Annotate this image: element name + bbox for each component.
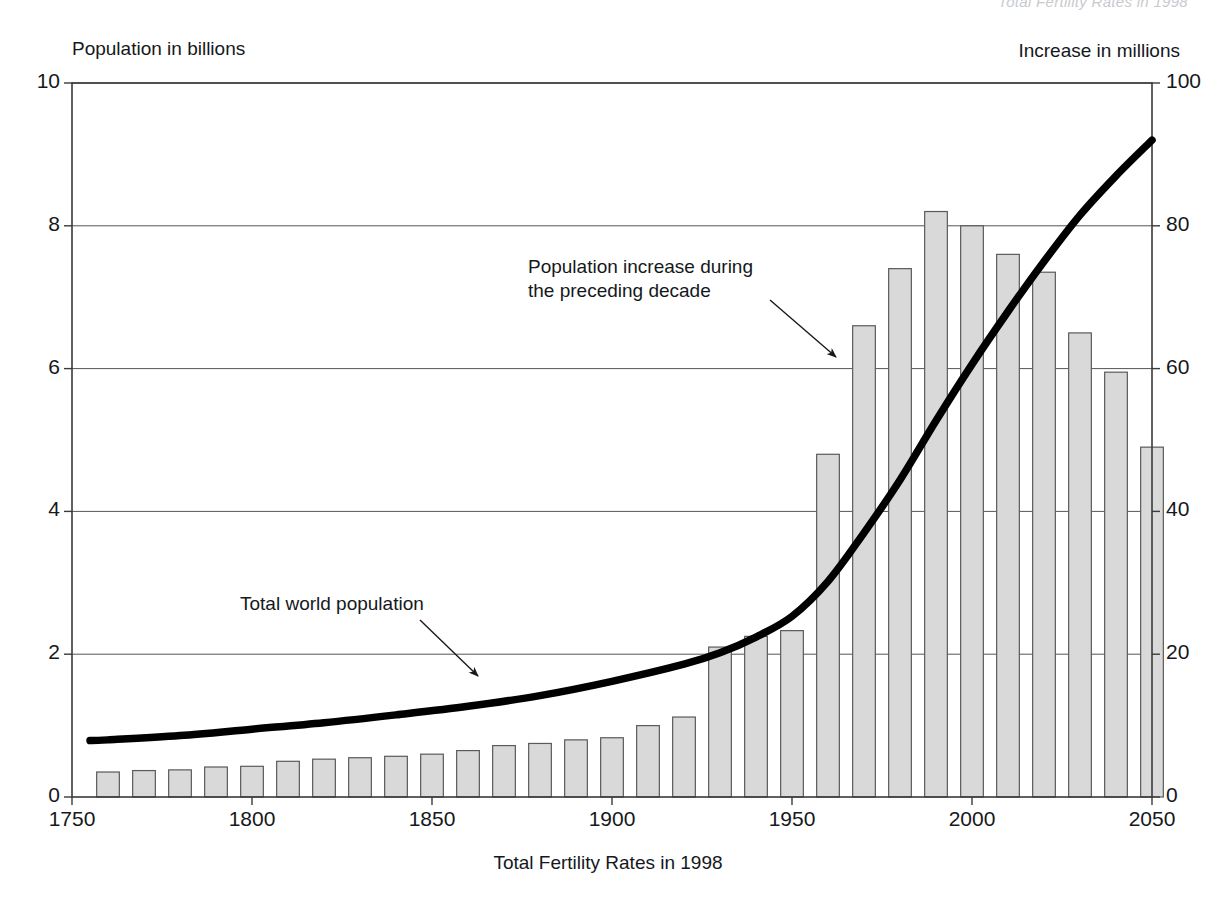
bar bbox=[961, 226, 984, 797]
x-axis-title: Total Fertility Rates in 1998 bbox=[0, 852, 1216, 874]
xtick-label: 2000 bbox=[932, 807, 1012, 831]
bar bbox=[997, 254, 1020, 797]
ytick-label-left: 4 bbox=[6, 497, 60, 521]
annotation-curve-label: Total world population bbox=[240, 592, 424, 616]
bar bbox=[385, 756, 408, 797]
population-line bbox=[90, 140, 1152, 740]
xtick-label: 1850 bbox=[392, 807, 472, 831]
bar bbox=[925, 212, 948, 797]
xtick-label: 2050 bbox=[1112, 807, 1192, 831]
bar bbox=[457, 751, 480, 797]
bar bbox=[241, 766, 264, 797]
frame-rect bbox=[72, 83, 1152, 797]
clipped-header-text: Total Fertility Rates in 1998 bbox=[998, 0, 1188, 10]
bar bbox=[673, 717, 696, 797]
bar bbox=[1105, 372, 1128, 797]
bar bbox=[889, 269, 912, 797]
bar bbox=[781, 631, 804, 797]
bar bbox=[205, 767, 228, 797]
bar bbox=[169, 770, 192, 797]
ytick-label-right: 20 bbox=[1166, 640, 1216, 664]
plot-canvas bbox=[0, 0, 1216, 905]
bar bbox=[817, 454, 840, 797]
bar bbox=[709, 647, 732, 797]
xtick-label: 1900 bbox=[572, 807, 652, 831]
ytick-label-right: 40 bbox=[1166, 497, 1216, 521]
bar bbox=[565, 740, 588, 797]
ytick-label-right: 100 bbox=[1166, 69, 1216, 93]
ytick-label-left: 0 bbox=[6, 783, 60, 807]
ytick-label-right: 0 bbox=[1166, 783, 1216, 807]
ytick-label-left: 10 bbox=[6, 69, 60, 93]
bar bbox=[601, 738, 624, 797]
annotation-bars-label: Population increase during the preceding… bbox=[528, 255, 753, 304]
bar bbox=[1033, 272, 1056, 797]
bar bbox=[313, 759, 336, 797]
left-axis-title: Population in billions bbox=[72, 38, 245, 60]
annotation-leaders bbox=[420, 300, 836, 676]
axis-ticks bbox=[64, 83, 1160, 805]
bar bbox=[853, 326, 876, 797]
right-axis-title: Increase in millions bbox=[1018, 40, 1180, 62]
ytick-label-left: 8 bbox=[6, 212, 60, 236]
plot-frame bbox=[72, 83, 1152, 797]
gridlines bbox=[72, 83, 1152, 654]
xtick-label: 1800 bbox=[212, 807, 292, 831]
bar bbox=[97, 772, 120, 797]
leader-line-curve bbox=[420, 620, 478, 676]
ytick-label-left: 2 bbox=[6, 640, 60, 664]
xtick-label: 1950 bbox=[752, 807, 832, 831]
ytick-label-right: 60 bbox=[1166, 355, 1216, 379]
leader-line-bars bbox=[770, 300, 836, 357]
bar bbox=[421, 754, 444, 797]
population-curve bbox=[90, 140, 1152, 740]
chart-figure: Total Fertility Rates in 1998 Population… bbox=[0, 0, 1216, 905]
bar bbox=[745, 636, 768, 797]
bar bbox=[133, 771, 156, 797]
bar bbox=[493, 746, 516, 797]
bar bbox=[529, 743, 552, 797]
ytick-label-right: 80 bbox=[1166, 212, 1216, 236]
bar bbox=[1069, 333, 1092, 797]
bar bbox=[277, 761, 300, 797]
bar bbox=[637, 726, 660, 797]
ytick-label-left: 6 bbox=[6, 355, 60, 379]
bar bbox=[349, 758, 372, 797]
xtick-label: 1750 bbox=[32, 807, 112, 831]
